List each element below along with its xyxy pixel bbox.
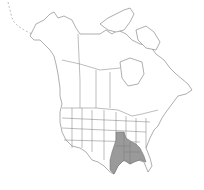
arctic-islands (100, 8, 134, 32)
range-map (0, 0, 204, 190)
north-america-map (0, 0, 204, 190)
continent-outline (30, 12, 192, 174)
